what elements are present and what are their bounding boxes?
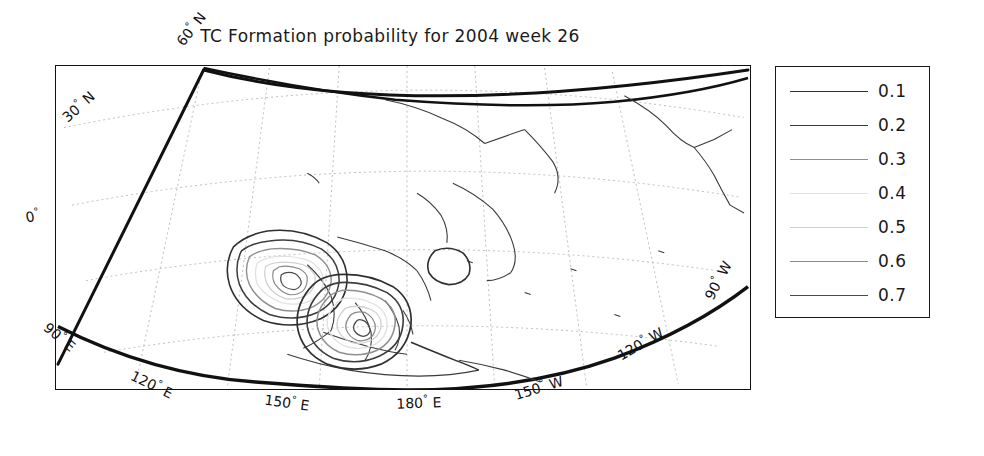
legend-label: 0.7 [878, 285, 907, 305]
contour-0.6 [346, 312, 376, 341]
contour-group-central-pacific [428, 248, 470, 284]
legend-label: 0.5 [878, 217, 907, 237]
degree-symbol: ° [291, 394, 297, 406]
contour-0.2 [237, 240, 339, 318]
legend-row: 0.5 [776, 209, 929, 245]
legend-label: 0.6 [878, 251, 907, 271]
contour-tail [411, 342, 479, 370]
legend-row: 0.3 [776, 141, 929, 177]
axis-label-latitude-suffix: N [190, 9, 209, 27]
figure-container: TC Formation probability for 2004 week 2… [0, 0, 984, 456]
legend-row: 0.4 [776, 175, 929, 211]
legend-label: 0.4 [878, 183, 907, 203]
legend-label: 0.2 [878, 115, 907, 135]
axis-label-longitude: 150° E [264, 390, 311, 414]
axis-label-latitude: 0° [24, 206, 41, 226]
legend-label: 0.3 [878, 149, 907, 169]
contour-0.1-tail [411, 342, 479, 370]
legend-line-swatch [790, 91, 868, 92]
degree-symbol: ° [33, 206, 40, 218]
contour-0.1 [428, 248, 470, 284]
contour-group-philippine-sea [227, 230, 347, 325]
axis-label-longitude: 180° E [396, 392, 442, 411]
legend-line-swatch [790, 227, 868, 228]
contour-0.6 [273, 266, 308, 295]
legend-line-swatch [790, 125, 868, 126]
contour-legend: 0.1 0.2 0.3 0.4 0.5 0.6 0.7 [775, 66, 930, 318]
legend-line-swatch [790, 295, 868, 296]
axis-label-longitude-suffix: E [432, 394, 441, 410]
legend-row: 0.7 [776, 277, 929, 313]
axis-label-longitude-suffix: E [299, 397, 310, 414]
legend-line-swatch [790, 193, 868, 194]
legend-line-swatch [790, 159, 868, 160]
axis-label-longitude-value: 150 [264, 392, 293, 412]
legend-row: 0.6 [776, 243, 929, 279]
legend-label: 0.1 [878, 81, 907, 101]
axis-label-longitude-suffix: E [161, 383, 176, 401]
contour-0.7 [281, 272, 302, 289]
degree-symbol: ° [423, 393, 428, 404]
legend-line-swatch [790, 261, 868, 262]
legend-row: 0.2 [776, 107, 929, 143]
legend-row: 0.1 [776, 73, 929, 109]
axis-label-longitude-value: 180 [396, 395, 423, 412]
